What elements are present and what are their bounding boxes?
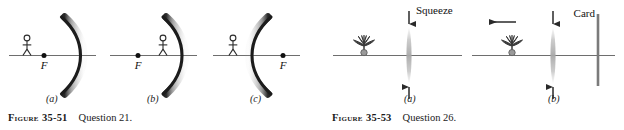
squeeze-label: Squeeze — [416, 4, 453, 16]
caption-figure-35-51: Figure 35-51 Question 21. — [8, 112, 132, 123]
focal-point-dot — [136, 53, 141, 58]
caption-figure-number: 35-53 — [366, 112, 392, 123]
caption-question-text: Question 26. — [403, 112, 457, 123]
caption-figure-word: Figure — [8, 112, 39, 123]
focal-point-label: F — [134, 59, 142, 71]
converging-lens — [406, 27, 411, 84]
card-label: Card — [574, 7, 596, 19]
panel-35-51-b: F — [110, 17, 197, 94]
physics-figure-sheet: F F F — [0, 0, 624, 130]
focal-point-dot — [281, 53, 286, 58]
figure-canvas: F F F — [0, 0, 624, 130]
panel-35-53-a: Squeeze — [333, 4, 462, 99]
panel-35-51-a: F — [9, 17, 96, 94]
stick-figure-observer — [229, 35, 238, 55]
caption-question-text: Question 21. — [79, 112, 133, 123]
potted-flower-object — [502, 36, 523, 56]
panel-label-35-53-b: (b) — [548, 93, 560, 104]
potted-flower-object — [354, 36, 375, 56]
converging-lens — [550, 27, 555, 84]
panel-label-35-51-a: (a) — [46, 93, 58, 104]
panel-label-35-53-a: (a) — [404, 93, 416, 104]
caption-figure-word: Figure — [332, 112, 363, 123]
stick-figure-observer — [23, 35, 32, 55]
caption-figure-number: 35-51 — [42, 112, 68, 123]
panel-label-35-51-b: (b) — [147, 93, 159, 104]
panel-35-51-c: F — [213, 17, 300, 94]
stick-figure-observer — [159, 35, 168, 55]
panel-35-53-b: Card — [472, 7, 615, 99]
caption-figure-35-53: Figure 35-53 Question 26. — [332, 112, 456, 123]
panel-label-35-51-c: (c) — [250, 93, 261, 104]
focal-point-dot — [42, 53, 47, 58]
focal-point-label: F — [279, 59, 287, 71]
focal-point-label: F — [40, 59, 48, 71]
